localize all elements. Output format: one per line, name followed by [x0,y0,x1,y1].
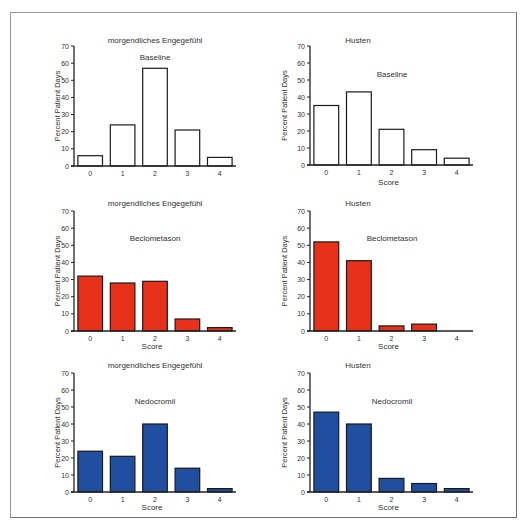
bar [347,92,372,165]
y-tick-label: 30 [297,438,305,445]
bar [143,281,168,331]
x-tick-label: 4 [218,170,222,177]
y-tick-label: 70 [297,43,305,50]
y-tick-label: 70 [61,43,69,50]
x-tick-label: 1 [121,170,125,177]
x-tick-label: 3 [422,335,426,342]
x-tick-label: 4 [455,169,459,176]
y-tick-label: 0 [65,489,69,496]
x-axis-label: Score [142,503,163,512]
y-tick-label: 60 [297,225,305,232]
bar [175,130,200,166]
y-tick-label: 30 [61,276,69,283]
bar [175,468,200,492]
bar [412,484,437,493]
bar [314,242,339,331]
x-tick-label: 2 [153,170,157,177]
chart-subtitle: Nedocromil [372,397,413,406]
y-tick-label: 40 [61,94,69,101]
y-tick-label: 50 [297,404,305,411]
bar-chart-2: HustenBaselinePercent Patient Days012340… [280,36,473,187]
x-tick-label: 0 [324,169,328,176]
chart-title: morgendliches Engegefühl [108,361,203,370]
x-tick-label: 1 [357,335,361,342]
x-tick-label: 0 [324,496,328,503]
y-axis-label: Percent Patient Days [280,236,289,307]
y-tick-label: 30 [297,111,305,118]
y-tick-label: 50 [61,242,69,249]
bar [379,478,404,492]
chart-title: Husten [345,36,370,45]
bar [444,158,469,165]
y-tick-label: 70 [297,370,305,377]
bar [347,261,372,331]
y-tick-label: 50 [61,404,69,411]
bar [110,283,135,331]
y-tick-label: 50 [297,77,305,84]
y-tick-label: 0 [65,328,69,335]
chart-subtitle: Beclometason [130,234,181,243]
bar [143,424,168,492]
bar [379,326,404,331]
x-axis-label: Score [378,342,399,351]
x-tick-label: 4 [455,335,459,342]
y-axis-label: Percent Patient Days [280,70,289,141]
bar [314,412,339,492]
x-tick-label: 3 [185,335,189,342]
y-tick-label: 60 [297,60,305,67]
chart-grid: morgendliches EngegefühlBaselinePercent … [0,0,527,526]
x-axis-label: Score [378,178,399,187]
x-tick-label: 0 [88,496,92,503]
bar [110,456,135,492]
x-tick-label: 3 [185,170,189,177]
y-tick-label: 0 [301,489,305,496]
x-tick-label: 3 [422,169,426,176]
y-tick-label: 20 [297,293,305,300]
x-tick-label: 2 [153,496,157,503]
bar [347,424,372,492]
chart-subtitle: Beclometason [367,234,418,243]
bar [412,150,437,165]
y-tick-label: 50 [297,242,305,249]
y-tick-label: 20 [61,293,69,300]
y-tick-label: 0 [301,162,305,169]
y-tick-label: 20 [61,128,69,135]
y-tick-label: 10 [61,310,69,317]
bar [314,106,339,166]
bar-chart-6: HustenNedocromilPercent Patient Days0123… [280,361,473,512]
y-tick-label: 30 [61,111,69,118]
x-tick-label: 3 [185,496,189,503]
chart-subtitle: Baseline [377,70,408,79]
y-tick-label: 10 [297,145,305,152]
bar-chart-1: morgendliches EngegefühlBaselinePercent … [53,36,236,177]
bar [208,157,233,166]
y-tick-label: 0 [65,163,69,170]
y-tick-label: 40 [297,94,305,101]
y-tick-label: 10 [297,310,305,317]
y-tick-label: 60 [61,387,69,394]
x-tick-label: 0 [88,335,92,342]
x-tick-label: 2 [390,169,394,176]
y-tick-label: 20 [61,455,69,462]
y-tick-label: 40 [297,259,305,266]
y-tick-label: 30 [61,438,69,445]
y-tick-label: 40 [61,421,69,428]
y-tick-label: 40 [297,421,305,428]
chart-subtitle: Baseline [140,53,171,62]
y-tick-label: 10 [61,472,69,479]
x-tick-label: 4 [218,496,222,503]
bar-chart-4: HustenBeclometasonPercent Patient Days01… [280,199,473,351]
bar [412,324,437,331]
x-tick-label: 2 [390,335,394,342]
y-tick-label: 70 [61,370,69,377]
y-axis-label: Percent Patient Days [280,397,289,468]
y-tick-label: 20 [297,128,305,135]
y-tick-label: 0 [301,328,305,335]
x-tick-label: 0 [324,335,328,342]
chart-title: morgendliches Engegefühl [108,199,203,208]
y-tick-label: 50 [61,77,69,84]
bar-chart-5: morgendliches EngegefühlNedocromilPercen… [53,361,236,512]
y-tick-label: 70 [61,208,69,215]
y-tick-label: 60 [61,225,69,232]
y-tick-label: 60 [61,60,69,67]
